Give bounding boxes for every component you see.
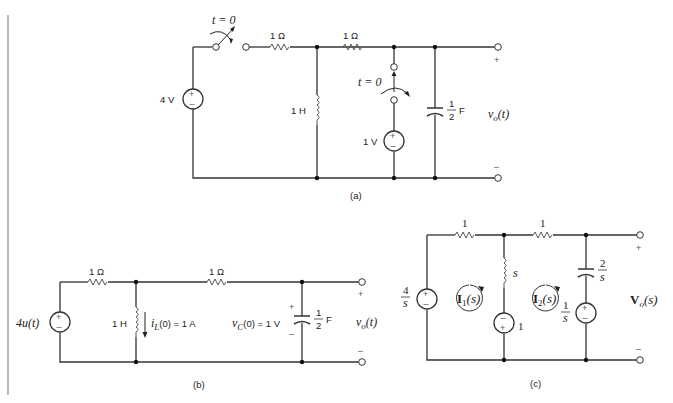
inductor-label: 1 H [291, 105, 306, 116]
svg-text:+: + [494, 55, 499, 65]
switch2-label: t = 0 [358, 75, 381, 89]
r2-label: 1 Ω [343, 30, 358, 41]
output-terminal-plus [359, 279, 366, 286]
svg-text:+: + [358, 289, 363, 299]
svg-text:+: + [423, 289, 428, 299]
resistor-2 [207, 279, 226, 285]
output-terminal-plus [495, 44, 502, 51]
svg-text:F: F [326, 314, 332, 325]
svg-text:–: – [636, 344, 641, 354]
inductor-1h [317, 95, 319, 125]
svg-text:s: s [513, 266, 518, 280]
circuit-a: t = 0 1 Ω 1 Ω + – 4 V 1 H t = 0 + [160, 13, 509, 201]
inductor-initial-current: iL(0) = 1 A [151, 316, 196, 332]
source-4v-label: 4 V [160, 94, 175, 105]
svg-text:–: – [391, 141, 396, 151]
caption-b: (b) [193, 379, 205, 390]
switch2-contact [391, 97, 398, 104]
svg-text:–: – [57, 322, 62, 332]
svg-text:2: 2 [316, 320, 321, 331]
resistor-1 [270, 44, 289, 50]
svg-text:1 Ω: 1 Ω [209, 266, 224, 277]
svg-text:–: – [583, 313, 588, 323]
inductor-s [504, 258, 506, 288]
resistor-1 [88, 279, 107, 285]
switch1-terminal [243, 44, 250, 51]
svg-text:–: – [424, 299, 429, 309]
output-terminal-minus [495, 175, 502, 182]
svg-text:+: + [189, 89, 194, 99]
svg-text:–: – [494, 162, 499, 172]
output-terminal-minus [637, 357, 644, 364]
circuit-b: 1 Ω 1 Ω + – 4u(t) 1 H iL(0) = 1 A + – vC… [16, 266, 377, 390]
svg-text:–: – [501, 313, 506, 323]
capacitor-unit: F [459, 105, 465, 116]
svg-text:1: 1 [563, 299, 569, 311]
svg-text:1 H: 1 H [112, 318, 127, 329]
caption-a: (a) [350, 190, 362, 201]
output-voltage-label: vo(t) [356, 315, 377, 331]
output-terminal-minus [359, 359, 366, 366]
circuit-figure: t = 0 1 Ω 1 Ω + – 4 V 1 H t = 0 + [0, 0, 673, 403]
svg-text:1: 1 [462, 217, 468, 229]
svg-text:1: 1 [518, 320, 524, 332]
output-terminal-plus [637, 232, 644, 239]
svg-text:1: 1 [449, 98, 454, 109]
output-voltage-label: Vo(s) [630, 292, 658, 309]
svg-text:+: + [582, 303, 587, 313]
svg-text:+: + [636, 243, 641, 253]
r1-label: 1 Ω [270, 30, 285, 41]
circuit-c: 1 1 + – 4 s I1(s) s – + 1 I2(s) 2 [401, 217, 658, 389]
switch2-terminal [391, 64, 398, 71]
resistor-1 [455, 232, 474, 238]
source-1v-label: 1 V [363, 136, 378, 147]
switch1-label: t = 0 [212, 13, 235, 27]
mesh1-current-label: I1(s) [457, 291, 480, 308]
svg-text:+: + [289, 302, 294, 312]
svg-text:s: s [403, 296, 408, 310]
svg-text:–: – [358, 346, 363, 356]
svg-text:+: + [390, 131, 395, 141]
svg-text:+: + [56, 312, 61, 322]
inductor-1h [136, 307, 138, 337]
source-label: 4u(t) [16, 316, 39, 330]
output-voltage-label: vo(t) [488, 107, 509, 123]
svg-text:1: 1 [316, 307, 321, 318]
svg-text:–: – [190, 99, 195, 109]
svg-text:4: 4 [403, 284, 409, 296]
svg-text:1: 1 [540, 217, 546, 229]
svg-text:+: + [500, 323, 505, 333]
capacitor-initial-voltage: vC(0) = 1 V [232, 316, 281, 332]
svg-text:s: s [563, 311, 568, 325]
svg-text:2: 2 [600, 257, 606, 269]
switch1-arrow-icon [210, 32, 231, 40]
svg-text:s: s [600, 270, 605, 284]
mesh2-current-label: I2(s) [533, 291, 556, 308]
resistor-2 [533, 232, 552, 238]
caption-c: (c) [530, 378, 541, 389]
svg-text:1 Ω: 1 Ω [89, 266, 104, 277]
svg-text:–: – [289, 329, 294, 339]
svg-text:2: 2 [449, 111, 454, 122]
